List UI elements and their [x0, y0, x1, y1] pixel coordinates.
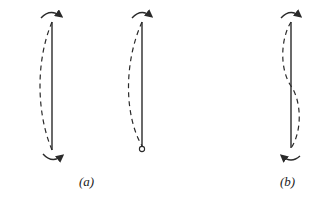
column-1-top-moment-arrow-icon — [41, 12, 61, 18]
column-1-buckled-shape — [40, 22, 52, 150]
caption-b: (b) — [280, 175, 295, 188]
pin-support-icon — [139, 146, 144, 151]
column-2-buckled-shape — [129, 22, 143, 146]
column-3-double-curvature — [281, 12, 300, 160]
column-1-bottom-moment-arrow-icon — [43, 154, 62, 160]
column-3-top-moment-arrow-icon — [281, 12, 300, 18]
column-2-top-moment-arrow-icon — [132, 12, 151, 18]
caption-a: (a) — [79, 175, 94, 188]
buckling-diagram — [0, 0, 319, 201]
column-1-fixed-fixed — [40, 12, 62, 159]
column-3-bottom-moment-arrow-icon — [282, 156, 300, 160]
column-2-fixed-pinned — [129, 12, 152, 151]
